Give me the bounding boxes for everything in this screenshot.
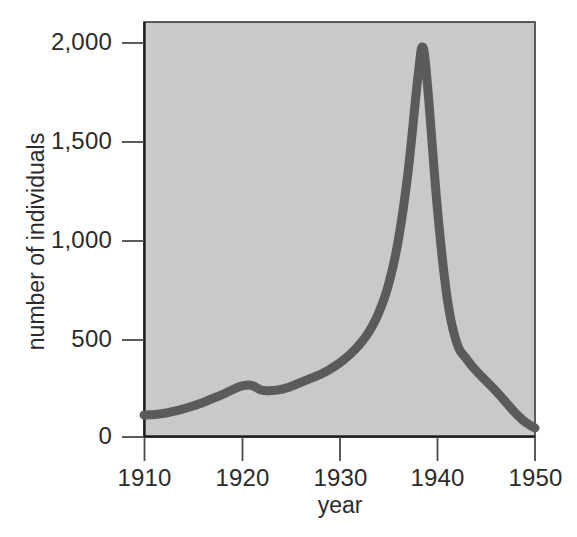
y-tick-label-1500: 1,500	[0, 127, 112, 155]
line-chart-canvas	[0, 0, 577, 537]
x-tick-label-1940: 1940	[387, 464, 488, 492]
x-axis-title: year	[230, 492, 450, 519]
y-tick-label-0: 0	[0, 422, 112, 450]
x-tick-label-1950: 1950	[485, 464, 577, 492]
y-tick-label-1000: 1,000	[0, 226, 112, 254]
y-axis-ticks	[122, 43, 144, 437]
x-tick-label-1930: 1930	[290, 464, 391, 492]
x-tick-label-1920: 1920	[192, 464, 293, 492]
chart-figure: 2,000 1,500 1,000 500 0 1910 1920 1930 1…	[0, 0, 577, 537]
x-tick-label-1910: 1910	[94, 464, 195, 492]
y-tick-label-2000: 2,000	[0, 28, 112, 56]
y-tick-label-500: 500	[0, 325, 112, 353]
y-axis-title: number of individuals	[23, 122, 50, 362]
x-axis-ticks	[145, 437, 536, 461]
